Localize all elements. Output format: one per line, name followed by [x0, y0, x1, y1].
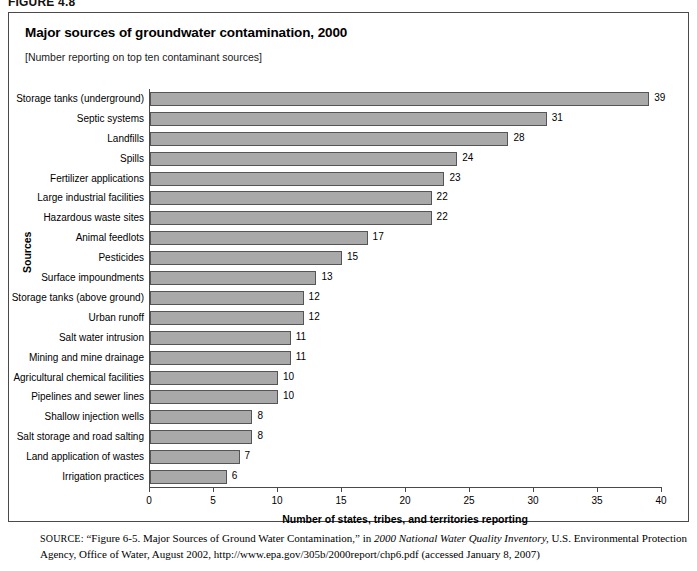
bar[interactable] — [150, 351, 291, 365]
bar-value-label: 24 — [462, 151, 473, 165]
bar[interactable] — [150, 172, 444, 186]
bar[interactable] — [150, 291, 304, 305]
bar-value-label: 13 — [321, 270, 332, 284]
category-label: Mining and mine drainage — [29, 351, 144, 365]
bar[interactable] — [150, 371, 278, 385]
bar[interactable] — [150, 152, 457, 166]
bar[interactable] — [150, 450, 240, 464]
source-text-part1: “Figure 6-5. Major Sources of Ground Wat… — [86, 532, 374, 544]
source-text-italic: 2000 National Water Quality Inventory, — [374, 532, 549, 544]
figure-number-label: FIGURE 4.8 — [8, 0, 75, 9]
bar[interactable] — [150, 331, 291, 345]
bar-value-label: 15 — [347, 250, 358, 264]
bar-value-label: 17 — [373, 230, 384, 244]
bar[interactable] — [150, 271, 316, 285]
bar[interactable] — [150, 410, 252, 424]
bar-value-label: 23 — [449, 171, 460, 185]
x-axis-tick-label: 30 — [527, 495, 538, 506]
category-label: Animal feedlots — [76, 231, 144, 245]
x-axis-tick — [341, 487, 342, 492]
source-label: SOURCE: — [40, 533, 84, 544]
chart-title: Major sources of groundwater contaminati… — [25, 25, 347, 40]
bar-value-label: 22 — [437, 190, 448, 204]
category-label: Pesticides — [98, 251, 144, 265]
bar-value-label: 8 — [257, 429, 263, 443]
chart-subtitle: [Number reporting on top ten contaminant… — [25, 51, 262, 63]
bar[interactable] — [150, 112, 547, 126]
x-axis-tick-label: 15 — [335, 495, 346, 506]
bar-value-label: 10 — [283, 389, 294, 403]
bar-value-label: 39 — [654, 91, 665, 105]
bar[interactable] — [150, 390, 278, 404]
bar-value-label: 6 — [232, 469, 238, 483]
bar[interactable] — [150, 191, 432, 205]
category-label: Land application of wastes — [26, 450, 144, 464]
category-label: Storage tanks (underground) — [16, 92, 144, 106]
category-label: Large industrial facilities — [37, 191, 144, 205]
category-label: Salt water intrusion — [59, 331, 144, 345]
x-axis-tick — [405, 487, 406, 492]
x-axis-tick-label: 0 — [146, 495, 152, 506]
x-axis-tick-label: 10 — [271, 495, 282, 506]
x-axis-title: Number of states, tribes, and territorie… — [149, 513, 661, 525]
x-axis-tick — [277, 487, 278, 492]
bar-value-label: 11 — [296, 350, 306, 364]
figure-box: Major sources of groundwater contaminati… — [8, 12, 689, 522]
category-label: Landfills — [107, 132, 144, 146]
bar-value-label: 7 — [245, 449, 251, 463]
x-axis-tick-label: 40 — [655, 495, 666, 506]
bar[interactable] — [150, 231, 368, 245]
x-axis-tick-label: 25 — [463, 495, 474, 506]
x-axis-tick-label: 5 — [210, 495, 216, 506]
x-axis-tick — [597, 487, 598, 492]
category-label: Shallow injection wells — [45, 410, 145, 424]
x-axis-tick — [213, 487, 214, 492]
bar[interactable] — [150, 211, 432, 225]
bar[interactable] — [150, 470, 227, 484]
category-label: Irrigation practices — [62, 470, 144, 484]
plot-area: Storage tanks (underground)39Septic syst… — [149, 89, 661, 487]
x-axis-tick-label: 20 — [399, 495, 410, 506]
x-axis-tick — [533, 487, 534, 492]
bar[interactable] — [150, 92, 649, 106]
x-axis-tick — [469, 487, 470, 492]
bar[interactable] — [150, 311, 304, 325]
y-axis-title: Sources — [21, 232, 33, 273]
x-axis-tick — [661, 487, 662, 492]
category-label: Hazardous waste sites — [43, 211, 144, 225]
bar[interactable] — [150, 430, 252, 444]
category-label: Fertilizer applications — [50, 172, 144, 186]
category-label: Urban runoff — [89, 311, 144, 325]
x-axis-tick-label: 35 — [591, 495, 602, 506]
bar-value-label: 31 — [552, 111, 563, 125]
category-label: Storage tanks (above ground) — [12, 291, 144, 305]
bar-value-label: 12 — [309, 290, 320, 304]
bar[interactable] — [150, 251, 342, 265]
y-axis-line — [149, 89, 150, 487]
category-label: Pipelines and sewer lines — [31, 390, 144, 404]
category-label: Salt storage and road salting — [17, 430, 144, 444]
x-axis-tick — [149, 487, 150, 492]
bar-value-label: 28 — [513, 131, 524, 145]
bar-value-label: 12 — [309, 310, 320, 324]
bar[interactable] — [150, 132, 508, 146]
source-note: SOURCE: “Figure 6-5. Major Sources of Gr… — [40, 531, 688, 561]
category-label: Septic systems — [77, 112, 144, 126]
bar-value-label: 8 — [257, 409, 263, 423]
figure-page: FIGURE 4.8 Major sources of groundwater … — [0, 0, 697, 571]
bar-value-label: 22 — [437, 210, 448, 224]
category-label: Spills — [120, 152, 144, 166]
category-label: Surface impoundments — [41, 271, 144, 285]
bar-value-label: 11 — [296, 330, 306, 344]
bar-value-label: 10 — [283, 370, 294, 384]
category-label: Agricultural chemical facilities — [13, 371, 144, 385]
